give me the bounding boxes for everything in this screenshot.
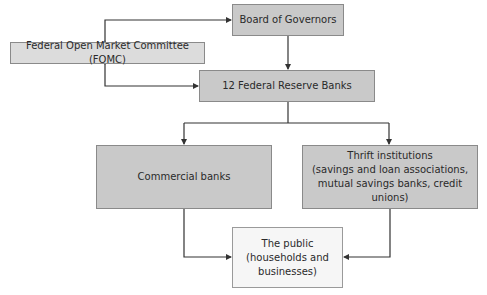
public-detail-line2: businesses) — [246, 265, 329, 279]
thrift-title: Thrift institutions — [303, 149, 477, 163]
commercial-banks-label: Commercial banks — [138, 170, 231, 184]
board-of-governors-label: Board of Governors — [239, 13, 336, 27]
board-fomc-connector — [105, 20, 231, 41]
fomc-frb-connector — [105, 64, 198, 86]
public-detail-line1: (households and — [246, 251, 329, 265]
commercial-public-connector — [184, 209, 231, 257]
thrift-public-connector — [344, 209, 390, 257]
public-title: The public — [246, 237, 329, 251]
board-of-governors-box: Board of Governors — [232, 4, 344, 36]
thrift-detail-line2: mutual savings banks, credit unions) — [303, 177, 477, 205]
fomc-box: Federal Open Market Committee (FOMC) — [10, 42, 205, 64]
thrift-institutions-box: Thrift institutions (savings and loan as… — [302, 145, 478, 209]
thrift-detail-line1: (savings and loan associations, — [303, 163, 477, 177]
federal-reserve-banks-box: 12 Federal Reserve Banks — [199, 70, 375, 102]
commercial-banks-box: Commercial banks — [96, 145, 272, 209]
federal-reserve-banks-label: 12 Federal Reserve Banks — [222, 79, 352, 93]
fomc-label: Federal Open Market Committee (FOMC) — [11, 39, 204, 67]
the-public-box: The public (households and businesses) — [232, 227, 343, 288]
